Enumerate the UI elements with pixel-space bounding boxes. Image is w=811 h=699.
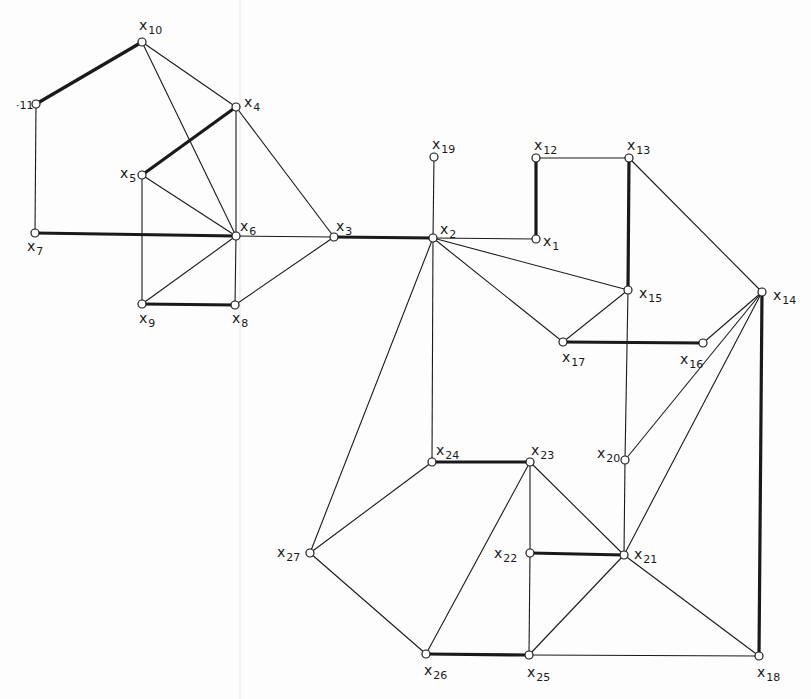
node-label-x21: x21 <box>634 546 657 566</box>
edge-x2-x15 <box>433 238 628 290</box>
node-x26 <box>422 650 430 658</box>
node-label-x15: x15 <box>639 285 662 305</box>
graph-canvas: x1x2x3x4x5x6x7x8x9x10·11x12x13x14x15x16x… <box>0 0 811 699</box>
node-label-x18: x18 <box>757 664 780 684</box>
edge-x9-x8 <box>142 304 235 305</box>
node-x22 <box>526 549 534 557</box>
node-label-x22: x22 <box>494 545 517 565</box>
node-x17 <box>559 338 567 346</box>
edge-x21-x18 <box>624 555 759 656</box>
node-x16 <box>699 339 707 347</box>
edge-x15-x17 <box>563 290 628 342</box>
edge-x11-x7 <box>35 104 36 233</box>
node-x24 <box>428 458 436 466</box>
edge-x7-x6 <box>35 233 236 236</box>
node-label-x7: x7 <box>27 238 43 258</box>
edge-x10-x6 <box>142 42 236 236</box>
node-x15 <box>624 286 632 294</box>
node-label-x25: x25 <box>527 664 550 684</box>
edge-x5-x6 <box>142 175 236 236</box>
edge-x27-x26 <box>310 553 426 654</box>
edge-x13-x15 <box>628 158 629 290</box>
node-x12 <box>532 154 540 162</box>
node-label-x11: ·11 <box>16 99 34 112</box>
edge-x10-x11 <box>36 42 142 104</box>
node-label-x17: x17 <box>562 349 585 369</box>
node-label-x10: x10 <box>139 17 162 37</box>
edge-x22-x25 <box>529 553 530 655</box>
node-x19 <box>430 153 438 161</box>
edge-x14-x21 <box>624 292 762 555</box>
node-label-x9: x9 <box>139 310 155 330</box>
edge-x15-x20 <box>625 290 628 460</box>
node-x8 <box>231 301 239 309</box>
node-label-x16: x16 <box>680 351 703 371</box>
edge-x6-x9 <box>142 236 236 304</box>
node-x23 <box>526 458 534 466</box>
edge-x13-x14 <box>629 158 762 292</box>
node-x14 <box>758 288 766 296</box>
node-x5 <box>138 171 146 179</box>
node-x20 <box>621 456 629 464</box>
node-label-x5: x5 <box>120 165 136 185</box>
edge-x22-x21 <box>530 553 624 555</box>
node-x3 <box>330 233 338 241</box>
node-x7 <box>31 229 39 237</box>
edge-x25-x18 <box>529 655 759 656</box>
node-label-x1: x1 <box>543 233 559 253</box>
edge-x2-x27 <box>310 238 433 553</box>
edge-x26-x25 <box>426 654 529 655</box>
edge-x14-x20 <box>625 292 762 460</box>
node-x13 <box>625 154 633 162</box>
edge-x10-x4 <box>142 42 236 107</box>
edge-x2-x24 <box>432 238 433 462</box>
node-x9 <box>138 300 146 308</box>
node-label-x24: x24 <box>436 442 459 462</box>
node-x25 <box>525 651 533 659</box>
edge-x17-x16 <box>563 342 703 343</box>
node-label-x3: x3 <box>336 218 352 238</box>
node-x1 <box>532 235 540 243</box>
node-x6 <box>232 232 240 240</box>
node-x10 <box>138 38 146 46</box>
node-label-x23: x23 <box>531 442 554 462</box>
edge-x14-x18 <box>759 292 762 656</box>
edge-x2-x19 <box>433 157 434 238</box>
node-label-x26: x26 <box>424 662 447 682</box>
edge-x2-x17 <box>433 238 563 342</box>
edge-x14-x16 <box>703 292 762 343</box>
node-x18 <box>755 652 763 660</box>
edge-x6-x8 <box>235 236 236 305</box>
node-label-x14: x14 <box>773 287 796 307</box>
edge-x23-x21 <box>530 462 624 555</box>
edge-x20-x21 <box>624 460 625 555</box>
node-x2 <box>429 234 437 242</box>
edge-x4-x3 <box>236 107 334 237</box>
node-x27 <box>306 549 314 557</box>
edge-x4-x5 <box>142 107 236 175</box>
graph-diagram: x1x2x3x4x5x6x7x8x9x10·11x12x13x14x15x16x… <box>0 0 811 699</box>
node-layer <box>31 38 766 660</box>
node-label-x27: x27 <box>277 544 300 564</box>
node-x21 <box>620 551 628 559</box>
edge-x8-x3 <box>235 237 334 305</box>
node-label-x20: x20 <box>597 445 620 465</box>
node-label-x6: x6 <box>240 218 256 238</box>
node-x4 <box>232 103 240 111</box>
label-layer: x1x2x3x4x5x6x7x8x9x10·11x12x13x14x15x16x… <box>16 17 796 684</box>
edge-x21-x25 <box>529 555 624 655</box>
node-label-x4: x4 <box>244 94 260 114</box>
